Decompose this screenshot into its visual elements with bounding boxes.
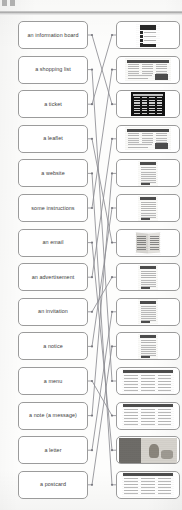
header-rule-shadow [0, 14, 182, 15]
label-text: a note (a message) [29, 412, 77, 419]
label-box-l11[interactable]: a menu [18, 367, 88, 395]
thumbnail-art [138, 196, 158, 221]
thumbnail-box-r5[interactable] [116, 159, 180, 187]
label-text: a leaflet [43, 135, 63, 142]
label-text: an email [42, 239, 63, 246]
label-box-l4[interactable]: a leaflet [18, 125, 88, 153]
connector-l2-r11 [88, 70, 116, 381]
label-box-l1[interactable]: an information board [18, 21, 88, 49]
label-box-l5[interactable]: a website [18, 159, 88, 187]
page-corner-mark [2, 0, 18, 7]
thumbnail-art [138, 161, 158, 186]
label-text: a menu [44, 378, 62, 385]
connector-l1-r3 [88, 35, 116, 104]
connector-l7-r13 [88, 243, 116, 451]
thumbnail-box-r4[interactable] [116, 125, 180, 153]
label-box-l3[interactable]: a ticket [18, 90, 88, 118]
connector-l5-r14 [88, 173, 116, 484]
label-text: a postcard [40, 481, 66, 488]
label-text: a ticket [44, 101, 62, 108]
thumbnail-box-r11[interactable] [116, 367, 180, 395]
label-text: a letter [44, 447, 61, 454]
thumbnail-art [138, 334, 158, 359]
thumbnail-box-r7[interactable] [116, 229, 180, 257]
connector-l9-r8 [88, 277, 116, 312]
label-box-l13[interactable]: a letter [18, 436, 88, 464]
label-box-l7[interactable]: an email [18, 229, 88, 257]
connector-l8-r4 [88, 139, 116, 277]
thumbnail-box-r6[interactable] [116, 194, 180, 222]
thumbnail-art [138, 265, 158, 290]
label-box-l6[interactable]: some instructions [18, 194, 88, 222]
label-box-l2[interactable]: a shopping list [18, 56, 88, 84]
label-box-l8[interactable]: an advertisement [18, 263, 88, 291]
label-box-l9[interactable]: an invitation [18, 298, 88, 326]
thumbnail-box-r8[interactable] [116, 263, 180, 291]
label-text: a notice [43, 343, 63, 350]
connector-l4-r7 [88, 139, 116, 243]
label-box-l10[interactable]: a notice [18, 332, 88, 360]
thumbnail-art [125, 127, 171, 150]
label-text: a website [41, 170, 65, 177]
connector-l13-r9 [88, 312, 116, 450]
label-text: a shopping list [35, 66, 71, 73]
thumbnail-box-r10[interactable] [116, 332, 180, 360]
label-text: an advertisement [32, 274, 75, 281]
connector-l3-r1 [88, 35, 116, 104]
connector-l14-r10 [88, 346, 116, 484]
thumbnail-art [119, 438, 177, 463]
thumbnail-box-r13[interactable] [116, 436, 180, 464]
connector-l6-r2 [88, 70, 116, 208]
connector-l11-r12 [88, 381, 116, 416]
label-box-l14[interactable]: a postcard [18, 471, 88, 499]
thumbnail-box-r2[interactable] [116, 56, 180, 84]
label-text: an information board [27, 32, 78, 39]
thumbnail-art [122, 369, 174, 394]
label-text: an invitation [38, 308, 68, 315]
thumbnail-art [125, 58, 171, 81]
thumbnail-art [136, 23, 160, 47]
thumbnail-art [138, 299, 158, 324]
label-text: some instructions [31, 205, 74, 212]
thumbnail-art [135, 231, 161, 255]
thumbnail-art [122, 403, 174, 428]
thumbnail-box-r9[interactable] [116, 298, 180, 326]
connector-l12-r5 [88, 173, 116, 415]
thumbnail-box-r14[interactable] [116, 471, 180, 499]
thumbnail-art [122, 472, 174, 497]
worksheet-page: an information boarda shopping lista tic… [0, 0, 182, 510]
label-box-l12[interactable]: a note (a message) [18, 402, 88, 430]
thumbnail-box-r3[interactable] [116, 90, 180, 118]
thumbnail-box-r12[interactable] [116, 402, 180, 430]
thumbnail-box-r1[interactable] [116, 21, 180, 49]
thumbnail-art [131, 92, 165, 116]
connector-l10-r6 [88, 208, 116, 346]
